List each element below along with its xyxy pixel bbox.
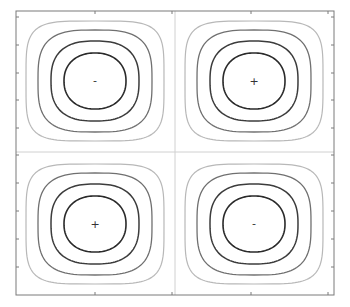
marker-top-right: + bbox=[249, 75, 258, 88]
marker-bottom-right: - bbox=[252, 217, 256, 230]
marker-top-left: - bbox=[93, 74, 97, 87]
contour-chart: - + + - bbox=[0, 0, 350, 307]
marker-bottom-left: + bbox=[90, 218, 99, 231]
